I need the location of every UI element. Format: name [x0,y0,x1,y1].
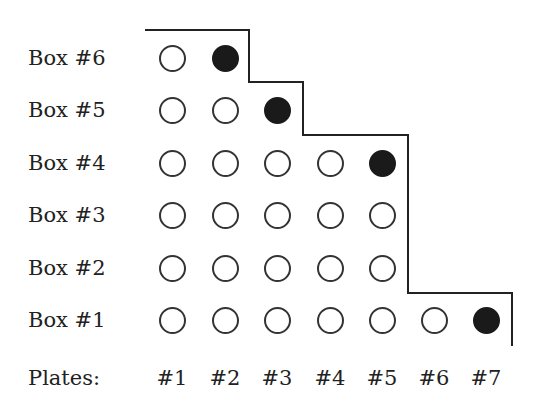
empty-circle [421,307,448,334]
empty-circle [264,307,291,334]
empty-circle [159,202,186,229]
empty-circle [212,202,239,229]
row-label-box-3: Box #3 [28,203,106,227]
empty-circle [159,150,186,177]
empty-circle [159,45,186,72]
plate-label-6: #6 [408,366,460,390]
empty-circle [212,255,239,282]
filled-circle [264,97,291,124]
plate-label-1: #1 [146,366,198,390]
plate-label-2: #2 [199,366,251,390]
plate-label-3: #3 [251,366,303,390]
filled-circle [369,150,396,177]
empty-circle [159,97,186,124]
empty-circle [264,255,291,282]
row-label-box-4: Box #4 [28,151,106,175]
empty-circle [212,150,239,177]
empty-circle [264,202,291,229]
plate-label-4: #4 [304,366,356,390]
empty-circle [212,307,239,334]
filled-circle [212,45,239,72]
empty-circle [369,255,396,282]
empty-circle [317,150,344,177]
plates-label: Plates: [28,366,100,390]
empty-circle [212,97,239,124]
empty-circle [317,202,344,229]
row-label-box-1: Box #1 [28,308,106,332]
row-label-box-5: Box #5 [28,98,106,122]
empty-circle [159,255,186,282]
empty-circle [317,255,344,282]
row-label-box-6: Box #6 [28,46,106,70]
empty-circle [369,307,396,334]
plate-label-7: #7 [460,366,512,390]
empty-circle [369,202,396,229]
filled-circle [473,307,500,334]
empty-circle [159,307,186,334]
empty-circle [264,150,291,177]
row-label-box-2: Box #2 [28,256,106,280]
plate-label-5: #5 [356,366,408,390]
empty-circle [317,307,344,334]
